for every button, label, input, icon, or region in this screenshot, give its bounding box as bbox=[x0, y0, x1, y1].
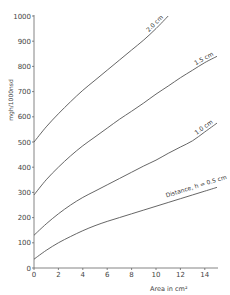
y-axis-label: mgh/1000nsd bbox=[7, 79, 15, 121]
axes bbox=[34, 15, 218, 268]
x-tick-label: 12 bbox=[176, 271, 185, 279]
x-ticks: 02468101214 bbox=[32, 268, 210, 279]
y-tick-label: 1000 bbox=[13, 13, 31, 21]
x-tick-label: 14 bbox=[200, 271, 209, 279]
y-tick-label: 500 bbox=[18, 139, 31, 147]
curve-1-5-cm bbox=[34, 56, 217, 195]
x-axis-label: Area in cm² bbox=[150, 285, 188, 293]
x-tick-label: 2 bbox=[56, 271, 60, 279]
x-tick-label: 10 bbox=[152, 271, 161, 279]
line-chart: 01002003004005006007008009001000 0246810… bbox=[0, 0, 230, 295]
y-tick-label: 300 bbox=[18, 189, 31, 197]
y-tick-label: 200 bbox=[18, 214, 31, 222]
curve-0-5-cm bbox=[34, 187, 217, 259]
y-tick-label: 0 bbox=[27, 265, 31, 273]
x-tick-label: 6 bbox=[105, 271, 110, 279]
curve-2-0-cm bbox=[34, 16, 168, 142]
x-axis-label-text: Area in cm² bbox=[150, 285, 188, 293]
x-tick-label: 0 bbox=[32, 271, 36, 279]
curve-label: Distance, h = 0.5 cm bbox=[165, 173, 228, 198]
x-tick-label: 8 bbox=[129, 271, 133, 279]
y-tick-label: 900 bbox=[18, 38, 31, 46]
y-ticks: 01002003004005006007008009001000 bbox=[13, 13, 34, 273]
y-tick-label: 400 bbox=[18, 164, 31, 172]
y-tick-label: 700 bbox=[18, 88, 31, 96]
x-tick-label: 4 bbox=[81, 271, 86, 279]
curve-1-0-cm bbox=[34, 123, 217, 235]
y-tick-label: 800 bbox=[18, 63, 31, 71]
y-tick-label: 600 bbox=[18, 113, 31, 121]
curves bbox=[34, 16, 217, 259]
y-tick-label: 100 bbox=[18, 239, 31, 247]
curve-labels: 2.0 cm1.5 cm1.0 cmDistance, h = 0.5 cm bbox=[144, 13, 227, 198]
